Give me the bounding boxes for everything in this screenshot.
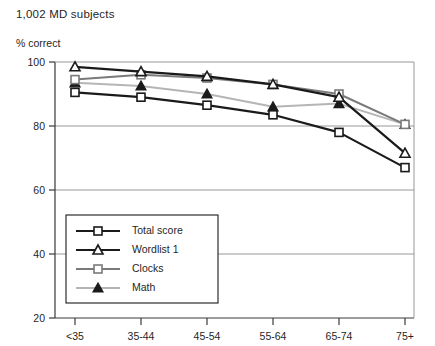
line-chart-plot: 20406080100 <3535-4445-5455-6465-7475+ T… [0, 0, 435, 346]
y-tick-label: 20 [33, 312, 45, 324]
legend-label: Math [132, 281, 156, 293]
x-tick-label: 45-54 [194, 330, 221, 342]
series-line [75, 83, 405, 125]
x-tick-label: 65-74 [326, 330, 353, 342]
series-line [75, 92, 405, 167]
data-point-square-marker [401, 120, 409, 128]
legend-label: Clocks [132, 262, 164, 274]
y-tick-label: 100 [27, 56, 45, 68]
data-point-square-marker [137, 93, 145, 101]
legend-square-marker [94, 227, 102, 235]
data-point-square-marker [401, 164, 409, 172]
x-tick-label: <35 [66, 330, 84, 342]
legend-label: Wordlist 1 [132, 243, 179, 255]
x-tick-group: <3535-4445-5455-6465-7475+ [66, 318, 414, 342]
chart-container: 1,002 MD subjects % correct 20406080100 … [0, 0, 435, 346]
legend-label: Total score [132, 224, 183, 236]
data-point-square-marker [71, 88, 79, 96]
data-point-square-marker [269, 111, 277, 119]
legend-square-marker [94, 265, 102, 273]
y-tick-group: 20406080100 [27, 56, 55, 324]
data-point-square-marker [335, 128, 343, 136]
chart-legend: Total scoreWordlist 1ClocksMath [66, 215, 218, 303]
y-tick-label: 80 [33, 120, 45, 132]
x-tick-label: 75+ [396, 330, 414, 342]
y-tick-label: 40 [33, 248, 45, 260]
x-tick-label: 55-64 [260, 330, 287, 342]
data-point-square-marker [203, 101, 211, 109]
x-tick-label: 35-44 [128, 330, 155, 342]
y-tick-label: 60 [33, 184, 45, 196]
data-point-square-marker [71, 76, 79, 84]
series-group [70, 62, 410, 172]
